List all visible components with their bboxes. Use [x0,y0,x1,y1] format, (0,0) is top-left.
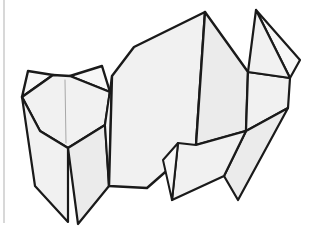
image-canvas [0,0,327,241]
origami-facet-back-right-panel [196,12,248,145]
origami-figure [0,0,327,241]
origami-facet-group [22,10,300,224]
